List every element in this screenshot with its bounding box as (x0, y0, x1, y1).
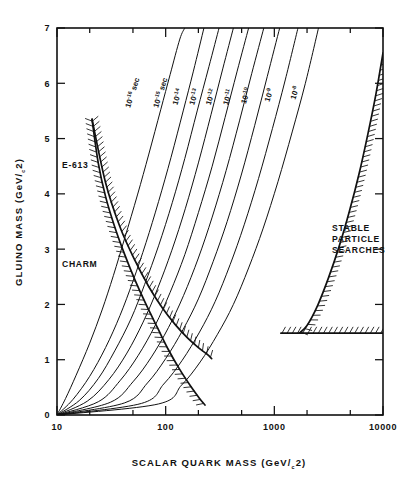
y-tick-label: 2 (44, 300, 50, 310)
annotation-stable-line3: SEARCHES (332, 245, 385, 255)
y-tick-label: 5 (44, 134, 50, 144)
hatch-mark (132, 290, 139, 291)
annotation-stable-line2: PARTICLE (332, 234, 380, 244)
hatch-mark (317, 305, 324, 306)
annotation-charm: CHARM (62, 259, 97, 269)
plot-svg: 10-16 sec10-15 sec10-1410-1310-1210-1110… (0, 0, 419, 489)
physics-exclusion-figure: 10-16 sec10-15 sec10-1410-1310-1210-1110… (0, 0, 419, 489)
y-tick-label: 1 (44, 355, 50, 365)
annotation-e613: E-613 (62, 160, 88, 170)
hatch-mark (135, 295, 142, 296)
y-tick-label: 4 (44, 189, 50, 199)
hatch-mark (178, 378, 185, 379)
y-tick-label: 0 (44, 410, 50, 420)
x-tick-label: 10 (51, 422, 62, 432)
annotation-stable-line1: STABLE (332, 223, 370, 233)
y-tick-label: 3 (44, 245, 50, 255)
y-tick-label: 6 (44, 79, 50, 89)
x-tick-label: 10000 (369, 422, 397, 432)
y-tick-label: 7 (44, 23, 50, 33)
x-tick-label: 1000 (263, 422, 285, 432)
x-tick-label: 100 (157, 422, 174, 432)
